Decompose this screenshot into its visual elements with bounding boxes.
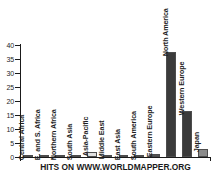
category-label: Northern Africa — [50, 110, 57, 161]
bar — [182, 111, 192, 157]
bar — [166, 52, 176, 157]
bar-chart: 0510152025303540 Central AfricaE. and S.… — [0, 0, 213, 172]
category-label: E. and S. Africa — [34, 110, 41, 161]
category-label: East Asia — [114, 129, 121, 160]
category-label: Asia-Pacific — [82, 116, 89, 156]
category-label: South Asia — [66, 124, 73, 160]
category-label: South America — [130, 111, 137, 160]
category-label: North America — [161, 8, 168, 56]
chart-title: HITS ON WWW.WORLDMAPPER.ORG — [20, 163, 211, 172]
category-label: Middle East — [98, 121, 105, 160]
category-label: Central Africa — [18, 115, 25, 160]
category-label: Eastern Europe — [145, 106, 152, 158]
category-label: Western Europe — [177, 61, 184, 115]
category-label: Japan — [193, 132, 200, 152]
